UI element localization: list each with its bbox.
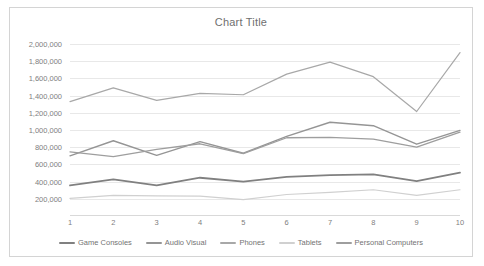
y-tick-label: 600,000	[35, 160, 62, 169]
x-tick-label: 5	[241, 218, 245, 227]
x-tick-label: 7	[328, 218, 332, 227]
chart-legend: Game ConsolesAudio VisualPhonesTabletsPe…	[10, 238, 472, 247]
y-tick-label: 1,800,000	[29, 57, 62, 66]
x-tick-label: 4	[198, 218, 202, 227]
x-tick-label: 3	[155, 218, 159, 227]
series-line	[70, 173, 460, 186]
series-line	[70, 122, 460, 156]
y-tick-label: 1,000,000	[29, 126, 62, 135]
chart-container: Chart Title 200,000400,000600,000800,000…	[9, 7, 473, 257]
legend-swatch-icon	[279, 242, 295, 244]
series-line	[70, 53, 460, 112]
legend-label: Personal Computers	[355, 238, 423, 247]
legend-label: Audio Visual	[165, 238, 207, 247]
x-tick-label: 1	[68, 218, 72, 227]
legend-label: Game Consoles	[78, 238, 132, 247]
legend-swatch-icon	[59, 242, 75, 244]
x-tick-label: 6	[285, 218, 289, 227]
x-axis: 12345678910	[70, 218, 460, 232]
series-line	[70, 190, 460, 200]
legend-item[interactable]: Phones	[220, 238, 264, 247]
legend-label: Tablets	[298, 238, 322, 247]
legend-swatch-icon	[146, 242, 162, 244]
plot-area	[70, 44, 460, 216]
legend-item[interactable]: Audio Visual	[146, 238, 207, 247]
legend-swatch-icon	[220, 242, 236, 244]
y-tick-label: 200,000	[35, 194, 62, 203]
legend-item[interactable]: Tablets	[279, 238, 322, 247]
legend-item[interactable]: Game Consoles	[59, 238, 132, 247]
legend-label: Phones	[239, 238, 264, 247]
y-axis: 200,000400,000600,000800,0001,000,0001,2…	[10, 44, 66, 216]
y-tick-label: 1,200,000	[29, 108, 62, 117]
legend-item[interactable]: Personal Computers	[336, 238, 423, 247]
x-tick-label: 9	[415, 218, 419, 227]
y-tick-label: 2,000,000	[29, 40, 62, 49]
chart-title: Chart Title	[10, 16, 472, 28]
legend-swatch-icon	[336, 242, 352, 244]
x-tick-label: 2	[111, 218, 115, 227]
x-tick-label: 10	[456, 218, 464, 227]
y-tick-label: 1,400,000	[29, 91, 62, 100]
y-tick-label: 400,000	[35, 177, 62, 186]
y-tick-label: 800,000	[35, 143, 62, 152]
series-lines	[70, 44, 460, 216]
y-tick-label: 1,600,000	[29, 74, 62, 83]
x-tick-label: 8	[371, 218, 375, 227]
